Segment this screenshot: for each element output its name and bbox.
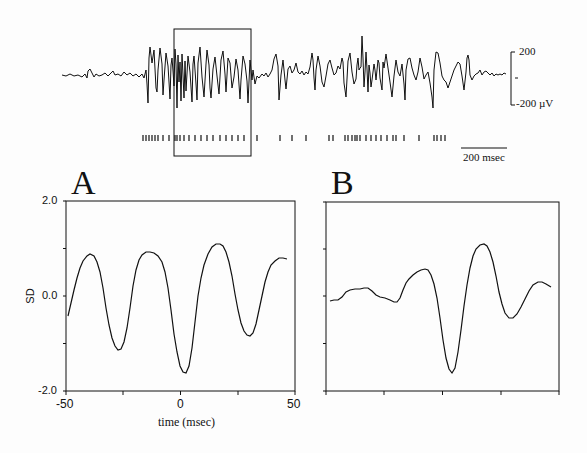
panel-b-curve: [330, 244, 551, 373]
spike-raster: [143, 135, 445, 141]
panel-a-label: A: [71, 166, 96, 200]
figure-canvas: [0, 0, 587, 453]
raw-trace: [62, 36, 506, 108]
panel-a-xlabel: time (msec): [158, 415, 215, 430]
panel-a-ytick-top: 2.0: [42, 194, 57, 206]
scale-top-label: 200: [519, 45, 536, 57]
panel-a-curve: [68, 244, 287, 373]
panel-a-ytick-mid: 0.0: [42, 289, 57, 301]
panel-a-axes: [63, 201, 295, 395]
panel-b-axes: [323, 202, 559, 395]
panel-a-ylabel: SD: [24, 288, 36, 303]
panel-a-xtick-left: -50: [56, 397, 73, 411]
panel-a-xtick-right: 50: [287, 397, 300, 411]
panel-a-ytick-bottom: -2.0: [38, 384, 57, 396]
panel-b-label: B: [331, 166, 354, 200]
scale-bottom-label: -200 µV: [516, 97, 553, 109]
panel-a-xtick-mid: 0: [177, 397, 184, 411]
time-scale-label: 200 msec: [463, 151, 505, 163]
